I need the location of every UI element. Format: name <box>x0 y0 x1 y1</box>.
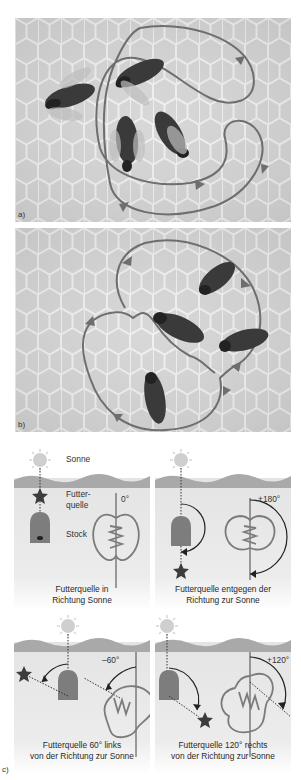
panel-label-b: b) <box>18 420 25 429</box>
panel-a-round-dance: a) <box>15 18 291 222</box>
sun-icon <box>156 615 178 637</box>
subpanel-c2: +180° Futterquelle entgegen der Richtung… <box>155 448 291 610</box>
angle-label: –60° <box>102 655 119 665</box>
subpanel-c1: Sonne Futter- quelle Stock 0° Futterquel… <box>14 448 150 610</box>
angle-label: +180° <box>258 494 280 504</box>
caption: Futterquelle 60° links von der Richtung … <box>14 740 150 762</box>
honeycomb-b <box>15 228 291 432</box>
sun-icon <box>170 449 192 471</box>
hive-icon <box>171 516 191 546</box>
legend-hive: Stock <box>66 529 87 539</box>
legend-sun: Sonne <box>66 454 90 464</box>
sun-icon <box>29 449 51 471</box>
legend-food-source-1: Futter- <box>66 489 91 499</box>
caption: Futterquelle entgegen der Richtung zur S… <box>155 584 291 606</box>
angle-label: 0° <box>121 494 129 504</box>
sun-icon <box>57 615 79 637</box>
subpanel-c4: +120° Futterquelle 120° rechts von der R… <box>155 612 291 774</box>
panel-label-a: a) <box>18 210 25 219</box>
panel-b-waggle-dance: b) <box>15 228 291 432</box>
angle-label: +120° <box>267 655 289 665</box>
subpanel-c3: –60° Futterquelle 60° links von der Rich… <box>14 612 150 774</box>
caption: Futterquelle in Richtung Sonne <box>14 584 150 606</box>
panel-label-c: c) <box>2 765 9 774</box>
hive-icon <box>159 670 179 700</box>
honeycomb-a <box>15 18 291 222</box>
caption: Futterquelle 120° rechts von der Richtun… <box>155 740 291 762</box>
legend-food-source-2: quelle <box>66 500 88 510</box>
